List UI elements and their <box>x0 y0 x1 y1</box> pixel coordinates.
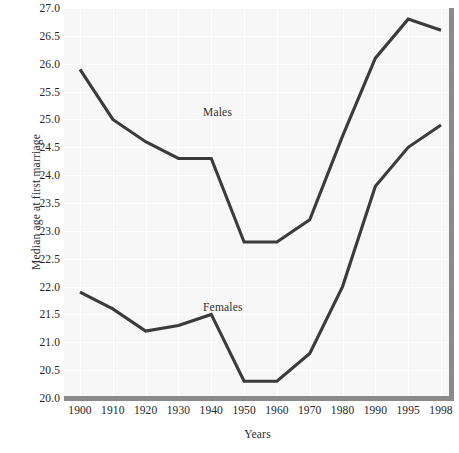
y-tick-label: 21.0 <box>14 336 60 348</box>
x-axis-rule <box>64 396 454 401</box>
y-tick-label: 24.0 <box>14 169 60 181</box>
y-tick-label: 26.5 <box>14 30 60 42</box>
y-tick-label: 27.0 <box>14 2 60 14</box>
y-tick-label: 25.0 <box>14 113 60 125</box>
y-tick-label: 23.0 <box>14 225 60 237</box>
y-tick-label: 25.5 <box>14 86 60 98</box>
series-line-females <box>80 125 441 381</box>
y-tick-label: 22.5 <box>14 253 60 265</box>
series-label-females: Females <box>203 301 243 313</box>
y-tick-label: 24.5 <box>14 141 60 153</box>
plot-grid <box>64 8 451 398</box>
x-axis-title: Years <box>64 428 451 440</box>
line-chart-figure: Median age at first marriage 20.020.521.… <box>0 0 459 453</box>
y-tick-label: 20.0 <box>14 392 60 404</box>
series-line-males <box>80 19 441 242</box>
y-tick-label: 22.0 <box>14 281 60 293</box>
right-axis-rule <box>449 8 454 401</box>
y-axis-tick-labels: 20.020.521.021.522.022.523.023.524.024.5… <box>14 0 60 453</box>
x-tick-label: 1998 <box>421 404 459 416</box>
y-tick-label: 23.5 <box>14 197 60 209</box>
y-tick-label: 26.0 <box>14 58 60 70</box>
x-axis-tick-labels: 1900191019201930194019501960197019801990… <box>64 404 451 422</box>
series-label-males: Males <box>203 106 232 118</box>
series-layer <box>64 8 451 398</box>
plot-area: Males Females <box>64 8 451 398</box>
y-tick-label: 21.5 <box>14 308 60 320</box>
y-tick-label: 20.5 <box>14 364 60 376</box>
